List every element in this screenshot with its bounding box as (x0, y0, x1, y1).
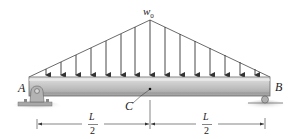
load-label: w0 (143, 6, 154, 20)
dimension-right-denominator: 2 (204, 126, 209, 136)
beam-diagram: w0 A B C L 2 L 2 (0, 0, 299, 139)
support-a-label: A (18, 82, 25, 94)
support-b-label: B (275, 81, 282, 93)
dimension-left-numerator: L (89, 112, 95, 122)
distributed-load (29, 20, 270, 77)
point-c-label: C (125, 100, 133, 112)
dimension-left-denominator: 2 (90, 126, 95, 136)
dimension-right-numerator: L (203, 112, 209, 122)
load-label-sub: 0 (150, 12, 154, 20)
load-arrows (46, 20, 255, 75)
dimension-line (37, 100, 265, 129)
beam (29, 77, 270, 96)
roller-support-b (245, 96, 285, 110)
